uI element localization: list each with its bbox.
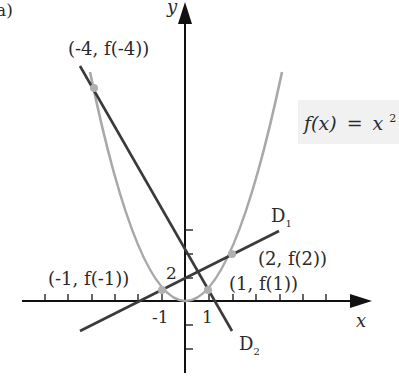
x-axis: x (22, 294, 372, 331)
tick-label-x-neg1: -1 (152, 307, 169, 327)
y-axis-label: y (166, 0, 178, 17)
line-label-d1: D1 (271, 205, 292, 229)
y-axis: y (166, 0, 193, 373)
y-axis-arrow-icon (178, 2, 192, 24)
y-axis-ticks (185, 230, 193, 349)
tick-label-y-2: 2 (166, 263, 177, 283)
point-label-neg4: (-4, f(-4)) (68, 38, 149, 59)
tick-label-x-1: 1 (202, 307, 213, 327)
parabola-secant-diagram: a) f(x) = x 2 x (0, 0, 399, 381)
line-label-d2: D2 (239, 333, 260, 357)
x-axis-label: x (356, 310, 366, 331)
point-label-2: (2, f(2)) (258, 248, 327, 269)
panel-label: a) (0, 0, 13, 20)
point-label-1: (1, f(1)) (229, 273, 298, 294)
point-label-neg1: (-1, f(-1)) (48, 268, 129, 289)
point-neg1 (158, 286, 166, 294)
point-1 (204, 286, 212, 294)
point-2 (228, 250, 236, 258)
point-neg4 (90, 84, 98, 92)
x-axis-arrow-icon (350, 294, 372, 308)
formula-label: f(x) = x 2 (302, 112, 396, 134)
